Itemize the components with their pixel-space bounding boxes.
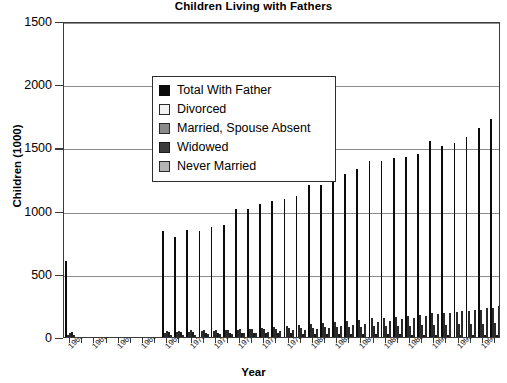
bar [292,330,294,337]
legend-item: Widowed [159,138,329,157]
bar-cluster [369,23,379,337]
y-tick-mark [55,85,63,86]
bar [381,161,383,337]
bar [320,185,322,337]
legend-item: Never Married [159,157,329,176]
bar [259,204,261,337]
bar-cluster [478,23,488,337]
bar [170,335,172,337]
bar [247,209,249,337]
bar [243,333,245,337]
y-tick-label: 1000 [0,206,52,218]
bar [413,318,415,337]
y-tick-label: 0 [0,332,52,344]
bar [235,209,237,337]
bar [441,146,443,337]
bar [449,313,451,337]
bar-cluster [466,23,476,337]
bar-cluster [441,23,451,337]
bar [162,231,164,337]
bar [231,334,233,337]
bar [356,169,358,337]
bar [219,334,221,337]
legend-label: Widowed [177,141,228,154]
bar [271,201,273,337]
bar-cluster [381,23,391,337]
y-axis-title: Children (1000) [11,91,23,241]
bar [490,119,492,337]
bar [207,334,209,337]
bar [474,310,476,337]
legend-label: Never Married [177,160,256,173]
bar [389,321,391,337]
bar-cluster [393,23,403,337]
legend-swatch-icon [159,142,170,153]
y-tick-mark [55,275,63,276]
bar [328,328,330,337]
bar [65,261,67,337]
y-tick-mark [55,22,63,23]
bar [369,161,371,337]
bar [186,230,188,337]
legend-item: Married, Spouse Absent [159,119,329,138]
y-tick-label: 1500 [0,142,52,154]
bar [486,308,488,337]
bar-cluster [429,23,439,337]
bar-cluster [490,23,500,337]
bar [461,311,463,337]
bar-cluster [405,23,415,337]
chart-title: Children Living with Fathers [0,0,507,13]
bar [478,128,480,337]
y-tick-mark [55,338,63,339]
bar [211,227,213,337]
bar [308,185,310,337]
bar [279,331,281,337]
bar [296,196,298,337]
bar [344,174,346,337]
bar [401,319,403,337]
legend-swatch-icon [159,123,170,134]
bar-cluster [356,23,366,337]
legend-swatch-icon [159,161,170,172]
legend-label: Divorced [177,103,226,116]
legend-label: Married, Spouse Absent [177,122,310,135]
legend-swatch-icon [159,104,170,115]
legend-label: Total With Father [177,84,271,97]
chart-figure: Children Living with Fathers Children (1… [0,0,507,383]
bar [304,330,306,337]
bar [194,335,196,337]
bar-cluster [344,23,354,337]
bar [199,231,201,337]
bar [377,322,379,337]
y-tick-label: 2000 [0,79,52,91]
bar [284,199,286,337]
bar-cluster [454,23,464,337]
plot-area: Total With FatherDivorcedMarried, Spouse… [63,22,500,338]
bar [466,137,468,337]
bar [417,154,419,337]
y-tick-label: 500 [0,269,52,281]
bar [425,316,427,337]
legend-swatch-icon [159,85,170,96]
bar [182,335,184,337]
bar-cluster [417,23,427,337]
bar [223,225,225,337]
bar [393,158,395,337]
bar [255,333,257,337]
bar [267,332,269,337]
bar [405,157,407,337]
legend-item: Divorced [159,100,329,119]
bar [429,141,431,337]
bar [340,326,342,337]
bar [352,325,354,337]
chart-legend: Total With FatherDivorcedMarried, Spouse… [152,76,336,182]
y-tick-label: 1500 [0,16,52,28]
y-tick-mark [55,148,63,149]
bar [332,176,334,337]
bar [73,335,75,337]
bar [316,329,318,337]
bar [454,143,456,337]
x-axis-title: Year [0,366,507,378]
bar [364,324,366,337]
bar [498,306,500,337]
